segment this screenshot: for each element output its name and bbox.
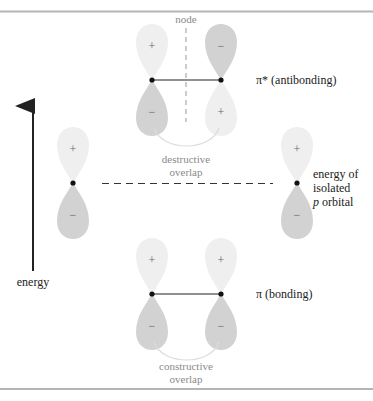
plus-sign-icon: + <box>218 253 225 267</box>
nucleus-dot <box>149 77 154 82</box>
node-label: node <box>175 13 197 25</box>
plus-sign-icon: + <box>218 105 225 119</box>
constructive-overlap-label-1: constructive <box>159 360 213 372</box>
minus-sign-icon: − <box>149 105 156 119</box>
right-isolated-p-orbital: + − <box>281 127 313 239</box>
nucleus-dot <box>218 77 223 82</box>
plus-sign-icon: + <box>294 142 301 156</box>
isolated-label-line-1: energy of <box>313 167 358 181</box>
energy-label: energy <box>17 275 49 289</box>
bonding-label: π (bonding) <box>256 287 312 301</box>
minus-sign-icon: − <box>70 208 77 222</box>
constructive-overlap-label-2: overlap <box>170 373 203 385</box>
plus-sign-icon: + <box>70 142 77 156</box>
left-isolated-p-orbital: + − <box>57 127 89 239</box>
nucleus-dot <box>149 291 154 296</box>
antibonding-label: π* (antibonding) <box>256 73 336 87</box>
minus-sign-icon: − <box>218 39 225 53</box>
isolated-label-line-3: p orbital <box>312 195 354 209</box>
nucleus-dot <box>218 291 223 296</box>
minus-sign-icon: − <box>294 208 301 222</box>
pi-mo-diagram: energy node + − − + destructive overlap … <box>0 0 373 401</box>
minus-sign-icon: − <box>149 319 156 333</box>
destructive-overlap-label: destructive <box>162 153 210 165</box>
isolated-label-line-2: isolated <box>313 181 350 195</box>
plus-sign-icon: + <box>149 39 156 53</box>
plus-sign-icon: + <box>149 253 156 267</box>
nucleus-dot <box>294 180 299 185</box>
destructive-overlap-arc <box>154 128 219 146</box>
energy-axis: energy <box>17 106 49 289</box>
destructive-overlap-label-2: overlap <box>170 166 203 178</box>
isolated-orbital-label: energy of isolated p orbital <box>312 167 358 209</box>
nucleus-dot <box>70 180 75 185</box>
constructive-overlap-arc <box>154 342 219 360</box>
minus-sign-icon: − <box>218 319 225 333</box>
bonding-orbital: + − + − constructive overlap π (bonding) <box>136 238 312 385</box>
